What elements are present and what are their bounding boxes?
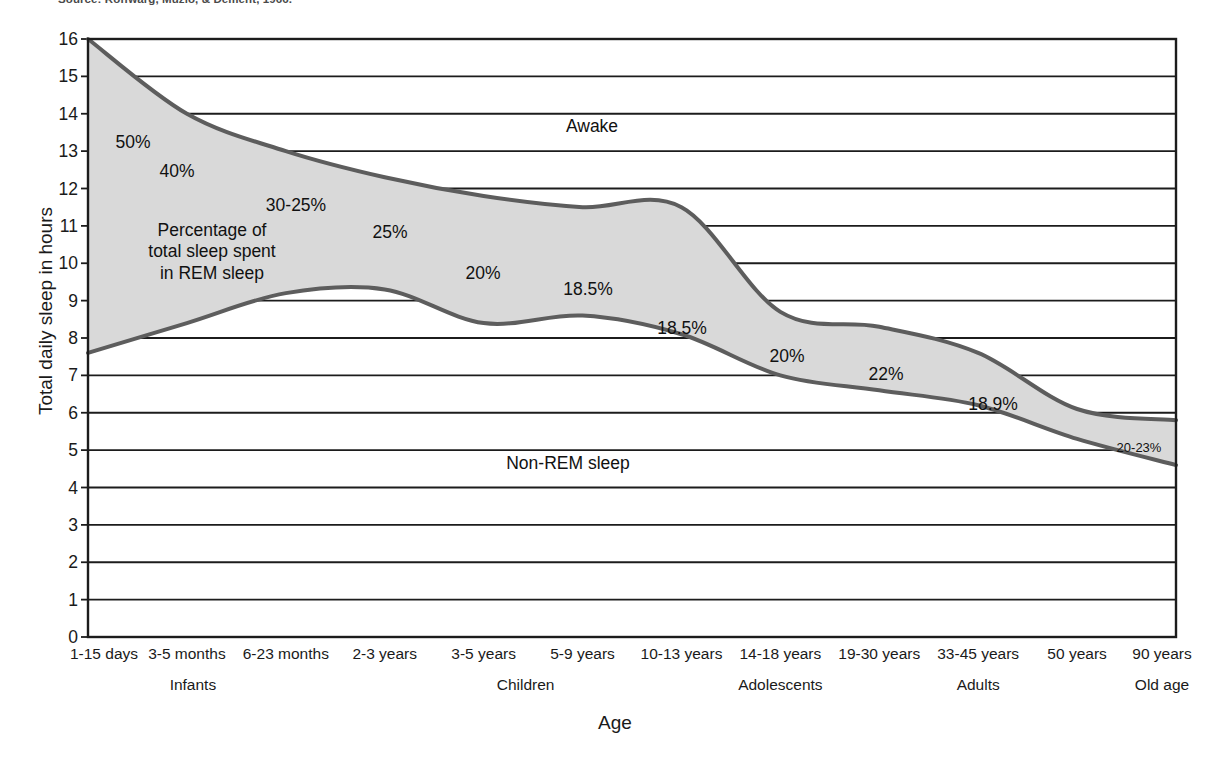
rem-percent-1-15-days: 50% (115, 132, 150, 153)
x-tick-label-3-5-months: 3-5 months (148, 645, 226, 663)
x-tick-label-19-30-years: 19-30 years (838, 645, 920, 663)
x-tick-label-10-13-years: 10-13 years (641, 645, 723, 663)
gridlines (88, 39, 1176, 637)
x-tick-label-1-15-days: 1-15 days (70, 645, 138, 663)
label-rem-band-line-3: in REM sleep (160, 263, 264, 283)
x-group-label-children: Children (497, 676, 555, 694)
label-rem-band-line-2: total sleep spent (148, 241, 275, 261)
rem-percent-33-45-years: 18.9% (968, 394, 1018, 415)
label-awake: Awake (566, 116, 618, 137)
rem-percent-6-23-months: 30-25% (266, 195, 326, 216)
rem-percent-2-3-years: 25% (372, 222, 407, 243)
x-tick-label-5-9-years: 5-9 years (550, 645, 615, 663)
rem-percent-19-30-years: 22% (868, 364, 903, 385)
rem-percent-10-13-years: 18.5% (657, 318, 707, 339)
rem-percent-5-9-years: 18.5% (563, 279, 613, 300)
x-group-label-adolescents: Adolescents (738, 676, 822, 694)
label-rem-band: Percentage of total sleep spent in REM s… (127, 220, 297, 284)
rem-percent-3-5-months: 40% (159, 161, 194, 182)
label-non-rem-sleep: Non-REM sleep (506, 453, 630, 474)
x-tick-label-3-5-years: 3-5 years (451, 645, 516, 663)
rem-percent-3-5-years: 20% (465, 263, 500, 284)
x-tick-label-6-23-months: 6-23 months (243, 645, 329, 663)
x-group-label-adults: Adults (957, 676, 1000, 694)
sleep-chart-figure: Source: Roffwarg, Muzio, & Dement, 1966.… (0, 0, 1230, 765)
x-tick-label-90-years: 90 years (1132, 645, 1191, 663)
x-tick-label-14-18-years: 14-18 years (739, 645, 821, 663)
x-tick-label-33-45-years: 33-45 years (937, 645, 1019, 663)
x-tick-label-50-years: 50 years (1047, 645, 1106, 663)
x-tick-label-2-3-years: 2-3 years (352, 645, 417, 663)
x-group-label-infants: Infants (170, 676, 217, 694)
label-rem-band-line-1: Percentage of (158, 220, 267, 240)
x-group-label-old-age: Old age (1135, 676, 1189, 694)
rem-percent-14-18-years: 20% (769, 346, 804, 367)
rem-percent-90-years: 20-23% (1117, 440, 1162, 456)
